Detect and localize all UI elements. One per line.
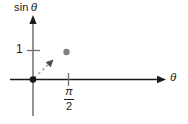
y-axis-arrowhead [29,15,36,24]
data-point-marker [63,49,69,55]
fraction-denominator: 2 [64,101,73,113]
y-axis-label: sinθ [14,2,37,14]
y-axis-label-function: sin [14,1,29,13]
x-axis-arrowhead [157,76,166,83]
fraction-numerator: π [64,86,73,98]
sine-function-plot: sinθ θ 1 π 2 [0,0,188,124]
plot-canvas [0,0,188,124]
x-axis-label: θ [170,72,176,84]
x-axis-tick-label-pi-over-2: π 2 [62,86,76,112]
fraction-pi-over-2: π 2 [64,86,73,112]
y-axis-label-variable: θ [31,1,37,13]
tangent-dashed-arrow-line [34,64,49,78]
origin-point-marker [30,76,37,83]
y-axis-tick-label-1: 1 [16,43,23,55]
